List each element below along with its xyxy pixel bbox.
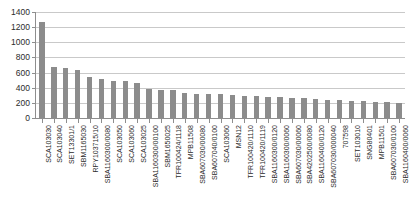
bar (63, 68, 68, 118)
y-axis-tick-label: 1400 (11, 8, 30, 17)
bar (337, 100, 342, 118)
bar (170, 90, 175, 118)
x-axis-tick-label: SBA607040/0100 (211, 125, 218, 180)
bar (87, 77, 92, 118)
x-axis-tick-label: SBA1160400/0120 (318, 125, 325, 183)
x-axis-tick (149, 118, 150, 123)
x-axis-tick-label: SBA1160300/0120 (271, 125, 278, 183)
x-axis-tick (197, 118, 198, 123)
y-axis-tick-label: 0 (25, 114, 30, 123)
x-axis-tick (125, 118, 126, 123)
x-axis-tick-label: TFR100424/1118 (175, 125, 182, 178)
x-axis-tick (375, 118, 376, 123)
bar (254, 96, 259, 118)
x-axis-tick (268, 118, 269, 123)
x-axis-tick-label: TFR100420/1110 (247, 125, 254, 178)
bar (361, 101, 366, 118)
x-axis: SCA103030SCA103040SET13301/1SBM1165030RP… (36, 118, 405, 210)
x-axis-tick (328, 118, 329, 123)
x-axis-tick (244, 118, 245, 123)
x-axis-tick (161, 118, 162, 123)
x-axis-tick (221, 118, 222, 123)
x-axis-tick-label: SBA1160300/00100 (152, 125, 159, 187)
bar (99, 79, 104, 118)
bar (134, 83, 139, 118)
x-axis-tick-label: RPY103715/10 (92, 125, 99, 172)
x-axis-tick-label: SBA607030/0100 (390, 125, 397, 180)
bar (218, 94, 223, 118)
bar (39, 22, 44, 118)
x-axis-tick (280, 118, 281, 123)
x-axis-tick (185, 118, 186, 123)
x-axis-tick-label: SBM1165030 (80, 125, 87, 167)
bars-layer (36, 12, 405, 118)
bar (277, 97, 282, 118)
x-axis-tick (304, 118, 305, 123)
x-axis-tick-label: 707598 (342, 125, 349, 148)
bar (111, 81, 116, 118)
plot-area (36, 12, 405, 118)
y-axis-tick-label: 1200 (11, 23, 30, 32)
x-axis-tick-label: MPB11508 (187, 125, 194, 159)
x-axis-tick-label: SBA607030/000040 (330, 125, 337, 188)
x-axis-tick (113, 118, 114, 123)
x-axis-tick (54, 118, 55, 123)
bar (194, 94, 199, 118)
x-axis-tick (256, 118, 257, 123)
bar (265, 97, 270, 118)
x-axis-tick-label: SCA103025 (140, 125, 147, 163)
x-axis-tick (66, 118, 67, 123)
bar (384, 102, 389, 118)
x-axis-tick-label: SET13301/1 (68, 125, 75, 164)
bar (182, 93, 187, 118)
x-axis-tick-label: SET103010 (354, 125, 361, 162)
x-axis-tick-label: MSN12 (235, 125, 242, 148)
bar (158, 90, 163, 118)
x-axis-tick-label: SCA103060 (223, 125, 230, 163)
x-axis-tick (209, 118, 210, 123)
x-axis-tick (90, 118, 91, 123)
bar-chart: 0200400600800100012001400 SCA103030SCA10… (0, 0, 409, 210)
y-axis-tick-label: 400 (16, 83, 30, 92)
x-axis-tick-label: SCA103050 (116, 125, 123, 163)
x-axis-tick-label: SCA103030 (45, 125, 52, 163)
bar (230, 95, 235, 118)
bar (206, 94, 211, 118)
x-axis-tick-label: SNG80401 (366, 125, 373, 160)
bar (146, 89, 151, 118)
y-axis-tick-label: 800 (16, 53, 30, 62)
bar (325, 100, 330, 118)
x-axis-tick (351, 118, 352, 123)
x-axis-tick (292, 118, 293, 123)
x-axis-tick-label: SBA607030/00080 (199, 125, 206, 184)
x-axis-tick (399, 118, 400, 123)
bar (51, 67, 56, 118)
y-axis-tick-label: 600 (16, 68, 30, 77)
bar (301, 98, 306, 118)
x-axis-tick-label: SBA1160300/0080 (104, 125, 111, 183)
x-axis-tick (78, 118, 79, 123)
x-axis-tick (101, 118, 102, 123)
y-axis-tick-label: 1000 (11, 38, 30, 47)
x-axis-tick-label: SBA607030/00060 (295, 125, 302, 184)
x-axis-tick-label: SBM1650025 (164, 125, 171, 167)
x-axis-tick (340, 118, 341, 123)
bar (289, 98, 294, 118)
x-axis-tick (42, 118, 43, 123)
bar (75, 70, 80, 118)
x-axis-tick (232, 118, 233, 123)
bar (349, 101, 354, 118)
bar (242, 96, 247, 118)
x-axis-tick (387, 118, 388, 123)
x-axis-tick-label: TFR100420/1119 (259, 125, 266, 178)
bar (313, 99, 318, 118)
x-axis-tick-label: SCA103040 (56, 125, 63, 163)
x-axis-tick (173, 118, 174, 123)
x-axis-tick-label: SBA1160400/0060 (402, 125, 409, 183)
x-axis-tick-label: SBA4202500/0080 (306, 125, 313, 184)
x-axis-tick (363, 118, 364, 123)
x-axis-tick (137, 118, 138, 123)
bar (373, 102, 378, 118)
bar (123, 81, 128, 118)
x-axis-tick (316, 118, 317, 123)
